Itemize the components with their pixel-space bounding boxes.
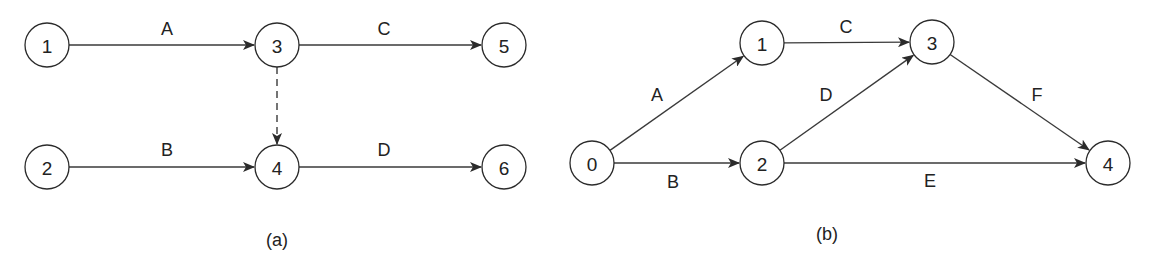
activity-arrow-a xyxy=(610,56,743,150)
activity-label: D xyxy=(820,85,833,105)
activity-label: A xyxy=(161,19,173,39)
node-label: 6 xyxy=(499,158,510,179)
activity-label: D xyxy=(378,140,391,160)
event-node-4: 4 xyxy=(255,145,299,189)
node-label: 5 xyxy=(499,36,510,57)
activity-label: B xyxy=(667,172,679,192)
event-node-2: 2 xyxy=(25,145,69,189)
event-node-6: 6 xyxy=(482,145,526,189)
diagram-caption: (b) xyxy=(816,224,838,244)
activity-arrow-d xyxy=(780,55,913,150)
node-label: 0 xyxy=(587,154,598,175)
node-label: 4 xyxy=(1103,154,1114,175)
event-node-5: 5 xyxy=(482,23,526,67)
event-node-1: 1 xyxy=(25,23,69,67)
activity-label: A xyxy=(651,85,663,105)
activity-arrow-f xyxy=(950,54,1089,150)
node-label: 3 xyxy=(272,36,283,57)
node-label: 1 xyxy=(42,36,53,57)
node-label: 2 xyxy=(42,158,53,179)
event-node-0: 0 xyxy=(570,141,614,185)
event-node-3: 3 xyxy=(910,20,954,64)
diagram-a: ACBD135246(a) xyxy=(25,19,526,250)
activity-label: C xyxy=(840,17,853,37)
activity-label: E xyxy=(924,171,936,191)
activity-label: F xyxy=(1032,85,1043,105)
activity-network-diagrams: ACBD135246(a) ABCDEF01324(b) xyxy=(0,0,1153,255)
event-node-4: 4 xyxy=(1086,141,1130,185)
node-label: 3 xyxy=(927,33,938,54)
node-label: 4 xyxy=(272,158,283,179)
event-node-1: 1 xyxy=(740,21,784,65)
activity-label: C xyxy=(378,19,391,39)
diagram-caption: (a) xyxy=(266,230,288,250)
diagram-b: ABCDEF01324(b) xyxy=(570,17,1130,244)
event-node-3: 3 xyxy=(255,23,299,67)
activity-label: B xyxy=(161,140,173,160)
node-label: 2 xyxy=(757,154,768,175)
event-node-2: 2 xyxy=(740,141,784,185)
node-label: 1 xyxy=(757,34,768,55)
activity-arrow-c xyxy=(784,42,909,43)
